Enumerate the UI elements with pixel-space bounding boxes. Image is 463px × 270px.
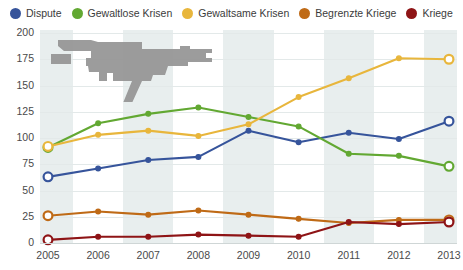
y-tick-label: 175: [2, 52, 34, 64]
x-tick-label: 2005: [25, 249, 71, 261]
legend-label: Dispute: [26, 8, 62, 19]
data-point-marker[interactable]: [296, 140, 301, 145]
data-point-marker[interactable]: [196, 134, 201, 139]
y-tick-label: 0: [2, 236, 34, 248]
data-point-marker[interactable]: [397, 137, 402, 142]
data-point-marker[interactable]: [346, 76, 351, 81]
data-series-layer: [40, 30, 457, 244]
series-kriege: [44, 218, 454, 245]
data-point-marker[interactable]: [246, 233, 251, 238]
chart-root: DisputeGewaltlose KrisenGewaltsame Krise…: [0, 0, 463, 270]
legend-item-4[interactable]: Kriege: [406, 8, 452, 19]
data-point-marker[interactable]: [445, 55, 454, 64]
data-point-marker[interactable]: [246, 128, 251, 133]
y-tick-label: 25: [2, 210, 34, 222]
data-point-marker[interactable]: [44, 142, 53, 151]
data-point-marker[interactable]: [196, 208, 201, 213]
x-tick-label: 2010: [276, 249, 322, 261]
x-tick-label: 2007: [125, 249, 171, 261]
data-point-marker[interactable]: [96, 234, 101, 239]
circle-marker-icon: [299, 8, 310, 19]
data-point-marker[interactable]: [346, 151, 351, 156]
data-point-marker[interactable]: [296, 95, 301, 100]
data-point-marker[interactable]: [246, 212, 251, 217]
data-point-marker[interactable]: [346, 220, 351, 225]
circle-marker-icon: [72, 8, 83, 19]
data-point-marker[interactable]: [146, 234, 151, 239]
data-point-marker[interactable]: [346, 130, 351, 135]
data-point-marker[interactable]: [146, 112, 151, 117]
data-point-marker[interactable]: [146, 212, 151, 217]
data-point-marker[interactable]: [445, 218, 454, 227]
legend-label: Gewaltsame Krisen: [198, 8, 289, 19]
data-point-marker[interactable]: [96, 209, 101, 214]
x-tick-label: 2008: [175, 249, 221, 261]
data-point-marker[interactable]: [296, 124, 301, 129]
x-tick-label: 2009: [226, 249, 272, 261]
chart-legend: DisputeGewaltlose KrisenGewaltsame Krise…: [0, 0, 463, 26]
data-point-marker[interactable]: [397, 154, 402, 159]
data-point-marker[interactable]: [44, 172, 53, 181]
y-tick-label: 50: [2, 184, 34, 196]
circle-marker-icon: [406, 8, 417, 19]
legend-label: Kriege: [422, 8, 452, 19]
plot-area: [40, 30, 457, 244]
legend-item-1[interactable]: Gewaltlose Krisen: [72, 8, 173, 19]
circle-marker-icon: [10, 8, 21, 19]
data-point-marker[interactable]: [445, 117, 454, 126]
legend-label: Gewaltlose Krisen: [88, 8, 173, 19]
data-point-marker[interactable]: [296, 234, 301, 239]
data-point-marker[interactable]: [96, 133, 101, 138]
y-tick-label: 125: [2, 105, 34, 117]
data-point-marker[interactable]: [146, 128, 151, 133]
data-point-marker[interactable]: [96, 121, 101, 126]
legend-item-3[interactable]: Begrenzte Kriege: [299, 8, 396, 19]
x-tick-label: 2006: [75, 249, 121, 261]
data-point-marker[interactable]: [96, 166, 101, 171]
legend-item-2[interactable]: Gewaltsame Krisen: [182, 8, 289, 19]
legend-label: Begrenzte Kriege: [315, 8, 396, 19]
x-tick-label: 2013: [426, 249, 463, 261]
data-point-marker[interactable]: [146, 158, 151, 163]
data-point-marker[interactable]: [445, 162, 454, 171]
data-point-marker[interactable]: [397, 222, 402, 227]
y-tick-label: 200: [2, 26, 34, 38]
data-point-marker[interactable]: [196, 105, 201, 110]
data-point-marker[interactable]: [296, 217, 301, 222]
y-tick-label: 75: [2, 157, 34, 169]
x-tick-label: 2012: [376, 249, 422, 261]
legend-item-0[interactable]: Dispute: [10, 8, 62, 19]
data-point-marker[interactable]: [246, 115, 251, 120]
series-gewaltsame-krisen: [44, 55, 454, 151]
data-point-marker[interactable]: [44, 211, 53, 220]
x-axis-line: [40, 243, 457, 244]
y-tick-label: 150: [2, 79, 34, 91]
x-tick-label: 2011: [326, 249, 372, 261]
data-point-marker[interactable]: [246, 122, 251, 127]
y-tick-label: 100: [2, 131, 34, 143]
data-point-marker[interactable]: [397, 56, 402, 61]
data-point-marker[interactable]: [196, 155, 201, 160]
data-point-marker[interactable]: [196, 232, 201, 237]
circle-marker-icon: [182, 8, 193, 19]
